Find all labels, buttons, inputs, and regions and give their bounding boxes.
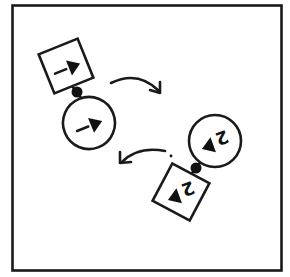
arrow-clockwise-top [111,78,160,93]
unit-2-circle: 2 [189,115,241,167]
pen-dot [170,155,173,158]
arrow-counter-bottom [120,150,172,163]
unit-2-square: 2 [153,164,210,221]
unit-1: 1 1 [39,39,123,157]
diagram-canvas: 1 1 2 2 [0,0,290,277]
unit-1-connector-dot [72,87,83,98]
unit-2-connector-dot [191,163,202,174]
unit-1-circle: 1 [55,89,123,157]
unit-2: 2 2 [153,115,241,220]
unit-1-square: 1 [39,39,94,94]
